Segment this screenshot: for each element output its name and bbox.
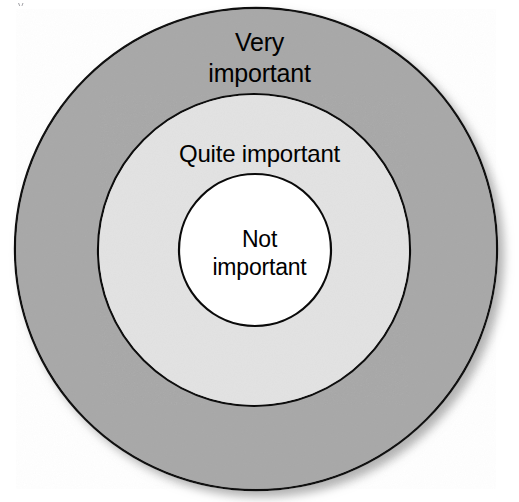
concentric-circles-graphic <box>0 0 519 502</box>
inner-circle-shape <box>179 174 331 326</box>
diagram-canvas: y Very important Quite impor <box>0 0 519 502</box>
